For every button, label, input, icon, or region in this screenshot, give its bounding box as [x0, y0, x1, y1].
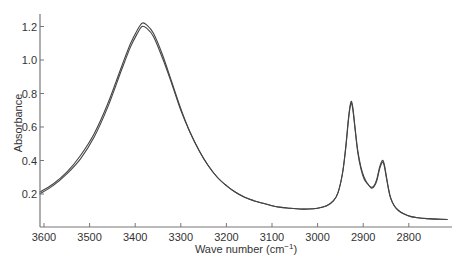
x-axis-ticks: 360035003400330032003100300029002800 — [32, 223, 421, 243]
x-tick-label: 3200 — [214, 231, 238, 243]
x-tick-label: 3000 — [305, 231, 329, 243]
y-axis-ticks: 0.20.40.60.81.01.2 — [22, 21, 44, 201]
x-tick-label: 3400 — [123, 231, 147, 243]
y-axis-title: Absorbance — [12, 94, 24, 153]
x-tick-label: 2900 — [351, 231, 375, 243]
x-tick-label: 3300 — [169, 231, 193, 243]
y-tick-label: 1.0 — [22, 54, 37, 66]
x-tick-label: 3100 — [260, 231, 284, 243]
x-tick-label: 2800 — [397, 231, 421, 243]
spectrum-lines — [39, 23, 447, 220]
x-tick-label: 3500 — [77, 231, 101, 243]
spectrum-line-spectrum-2 — [39, 26, 447, 219]
absorbance-chart: 0.20.40.60.81.01.2 360035003400330032003… — [0, 0, 461, 264]
y-tick-label: 0.2 — [22, 188, 37, 200]
spectrum-line-spectrum-1 — [39, 23, 447, 220]
x-axis-title: Wave number (cm−1) — [195, 242, 297, 255]
y-tick-label: 0.4 — [22, 155, 37, 167]
x-tick-label: 3600 — [32, 231, 56, 243]
y-tick-label: 1.2 — [22, 21, 37, 33]
